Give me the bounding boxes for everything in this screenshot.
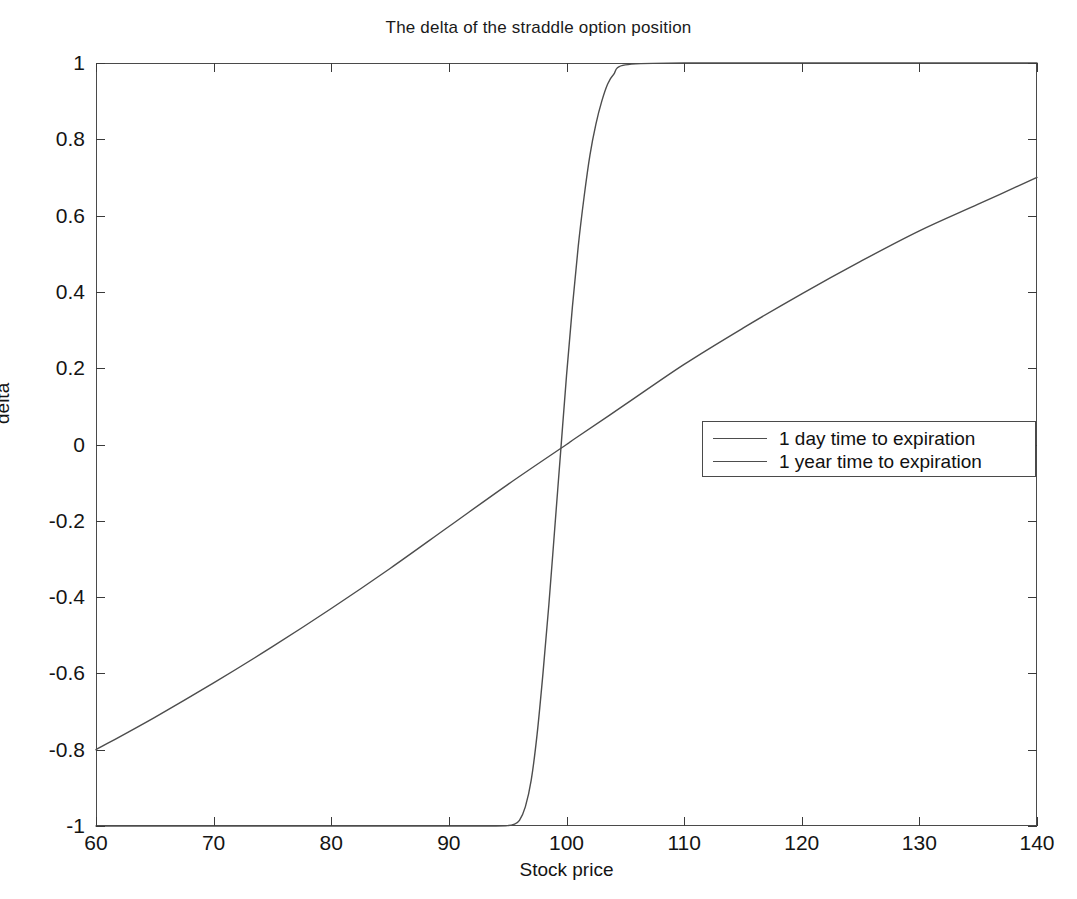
- y-tick-0: [96, 445, 105, 446]
- x-tick-top-110: [684, 63, 685, 72]
- y-tick-right-0.4: [1028, 292, 1037, 293]
- y-tick-label--1: -1: [66, 814, 85, 838]
- x-axis-label: Stock price: [96, 859, 1037, 881]
- x-tick-top-130: [919, 63, 920, 72]
- y-tick-0.2: [96, 368, 105, 369]
- y-tick-right--0.4: [1028, 597, 1037, 598]
- x-tick-label-140: 140: [1019, 831, 1054, 855]
- legend-label-1-year: 1 year time to expiration: [779, 452, 982, 471]
- x-tick-label-100: 100: [549, 831, 584, 855]
- y-tick-label-0.4: 0.4: [56, 280, 85, 304]
- legend-line-swatch-1-day: [713, 438, 767, 439]
- x-tick-110: [684, 817, 685, 826]
- y-tick-right--1: [1028, 826, 1037, 827]
- y-tick-right-1: [1028, 63, 1037, 64]
- y-tick-0.4: [96, 292, 105, 293]
- legend-line-swatch-1-year: [713, 461, 767, 462]
- y-tick-label-0.2: 0.2: [56, 356, 85, 380]
- y-tick-label-0.6: 0.6: [56, 204, 85, 228]
- y-axis-label: delta: [0, 383, 14, 424]
- y-tick-right-0.8: [1028, 139, 1037, 140]
- y-tick-label-1: 1: [73, 51, 85, 75]
- x-tick-label-60: 60: [84, 831, 107, 855]
- x-tick-80: [331, 817, 332, 826]
- page-title: The delta of the straddle option positio…: [0, 18, 1077, 38]
- figure-canvas: The delta of the straddle option positio…: [0, 0, 1077, 899]
- y-tick--1: [96, 826, 105, 827]
- x-tick-label-110: 110: [667, 831, 700, 855]
- y-tick-right-0.6: [1028, 216, 1037, 217]
- x-tick-120: [802, 817, 803, 826]
- y-tick-label-0.8: 0.8: [56, 127, 85, 151]
- y-tick-label--0.4: -0.4: [49, 585, 85, 609]
- x-tick-label-80: 80: [320, 831, 343, 855]
- legend-item-1-year[interactable]: 1 year time to expiration: [703, 450, 1035, 473]
- x-tick-90: [449, 817, 450, 826]
- y-tick--0.6: [96, 673, 105, 674]
- y-tick--0.8: [96, 750, 105, 751]
- y-tick-right--0.8: [1028, 750, 1037, 751]
- x-tick-label-90: 90: [437, 831, 460, 855]
- y-tick-label--0.2: -0.2: [49, 509, 85, 533]
- x-tick-label-120: 120: [784, 831, 819, 855]
- y-tick--0.2: [96, 521, 105, 522]
- x-tick-130: [919, 817, 920, 826]
- y-tick-1: [96, 63, 105, 64]
- y-tick-label--0.8: -0.8: [49, 738, 85, 762]
- y-tick-right--0.6: [1028, 673, 1037, 674]
- y-tick--0.4: [96, 597, 105, 598]
- x-tick-top-90: [449, 63, 450, 72]
- legend-label-1-day: 1 day time to expiration: [779, 429, 975, 448]
- x-tick-top-60: [96, 63, 97, 72]
- y-tick-right-0.2: [1028, 368, 1037, 369]
- x-tick-top-70: [214, 63, 215, 72]
- x-tick-100: [567, 817, 568, 826]
- y-tick-label-0: 0: [73, 433, 85, 457]
- legend-item-1-day[interactable]: 1 day time to expiration: [703, 427, 1035, 450]
- x-tick-label-70: 70: [202, 831, 225, 855]
- x-tick-70: [214, 817, 215, 826]
- y-tick-0.6: [96, 216, 105, 217]
- legend-box[interactable]: 1 day time to expiration 1 year time to …: [702, 421, 1036, 477]
- plot-area: 60708090100110120130140 -1-0.8-0.6-0.4-0…: [96, 63, 1037, 826]
- x-tick-label-130: 130: [902, 831, 937, 855]
- y-tick-label--0.6: -0.6: [49, 661, 85, 685]
- x-tick-140: [1037, 817, 1038, 826]
- x-tick-top-140: [1037, 63, 1038, 72]
- x-tick-top-100: [567, 63, 568, 72]
- x-tick-60: [96, 817, 97, 826]
- y-tick-0.8: [96, 139, 105, 140]
- y-tick-right--0.2: [1028, 521, 1037, 522]
- x-tick-top-120: [802, 63, 803, 72]
- x-tick-top-80: [331, 63, 332, 72]
